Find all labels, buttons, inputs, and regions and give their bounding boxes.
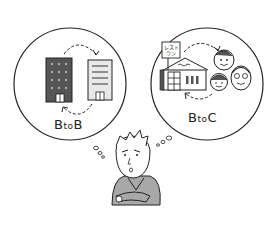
thinking-man-icon bbox=[112, 130, 160, 205]
thought-dots-left bbox=[94, 146, 105, 158]
light-building-icon bbox=[88, 60, 112, 100]
thought-dots-right bbox=[157, 136, 172, 146]
b2b-label: BtoB bbox=[54, 117, 83, 132]
b2c-label: BtoC bbox=[188, 110, 217, 125]
illustration bbox=[0, 0, 274, 226]
dark-building-icon bbox=[46, 58, 72, 102]
restaurant-sign: レスト ラン bbox=[162, 44, 180, 56]
